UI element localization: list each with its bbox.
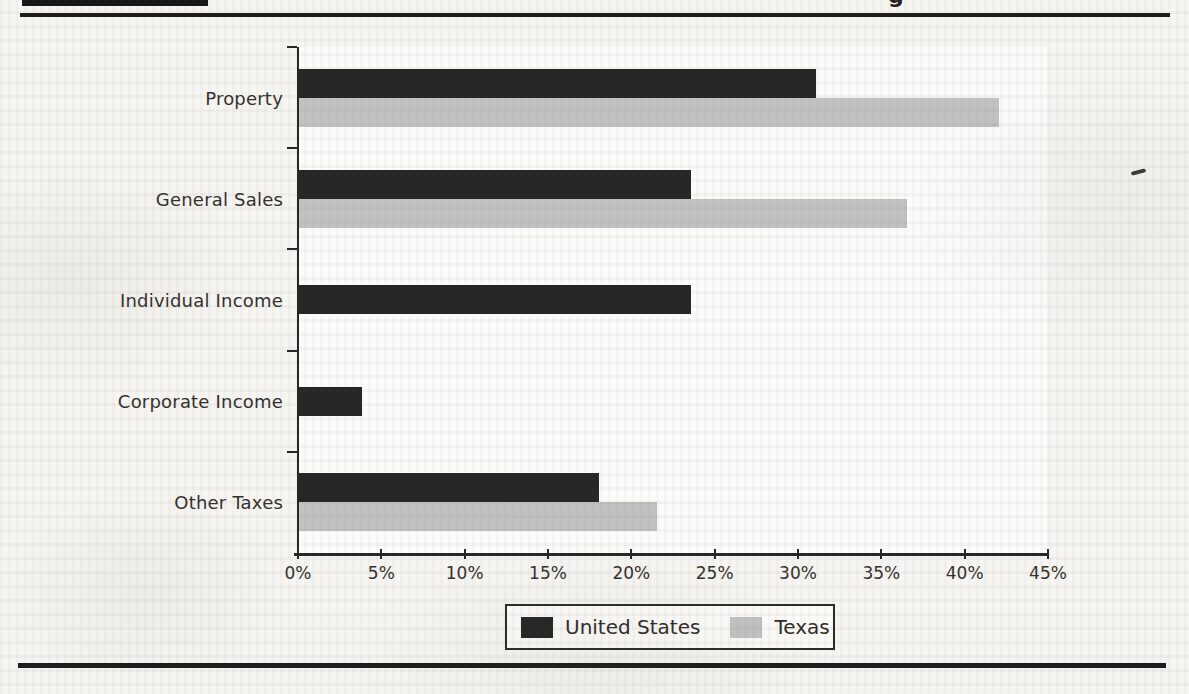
united-states-bar [299,473,599,502]
x-axis-tick [547,549,549,559]
header-tab-fragment [22,0,208,6]
legend-entry-texas: Texas [730,615,829,639]
legend-swatch-icon [730,617,762,638]
category-row-other-taxes: Other Taxes [299,452,1047,553]
top-rule [20,13,1170,17]
bottom-rule [18,663,1166,668]
texas-bar [299,502,657,531]
x-axis-tick [1047,549,1049,559]
category-label: Corporate Income [118,391,283,412]
x-axis-tick [714,549,716,559]
category-row-general-sales: General Sales [299,148,1047,249]
united-states-bar [299,285,691,314]
category-label: Individual Income [120,289,283,310]
legend-label: Texas [774,615,829,639]
category-label: General Sales [156,188,283,209]
bar-group [299,148,1047,249]
legend-label: United States [565,615,700,639]
texas-bar [299,199,907,228]
x-axis-tick [964,549,966,559]
y-axis-tick [287,350,297,352]
x-axis-tick [630,549,632,559]
x-axis-tick [464,549,466,559]
x-axis-tick-label: 35% [862,563,900,583]
x-axis: 0%5%10%15%20%25%30%35%40%45% [294,553,1049,556]
x-axis-tick [297,549,299,559]
x-axis-tick-label: 25% [696,563,734,583]
x-axis-tick-label: 40% [946,563,984,583]
x-axis-tick-label: 15% [529,563,567,583]
y-axis-tick [287,451,297,453]
united-states-bar [299,69,816,98]
x-axis-tick [797,549,799,559]
united-states-bar [299,387,362,416]
x-axis-tick-label: 20% [612,563,650,583]
category-label: Property [205,87,283,108]
bar-group [299,351,1047,452]
category-row-corporate-income: Corporate Income [299,351,1047,452]
heading-letter-fragment: g [888,0,904,8]
legend-swatch-icon [521,617,553,638]
y-axis-tick [287,46,297,48]
united-states-bar [299,170,691,199]
x-axis-tick-label: 10% [446,563,484,583]
x-axis-tick-label: 30% [779,563,817,583]
y-axis-tick [287,248,297,250]
texas-bar [299,98,999,127]
cropped-heading-text: g [886,0,912,8]
x-axis-tick-label: 0% [285,563,312,583]
x-axis-tick [880,549,882,559]
bar-group [299,452,1047,553]
x-axis-tick-label: 45% [1029,563,1067,583]
bar-group [299,249,1047,350]
bar-group [299,47,1047,148]
category-row-individual-income: Individual Income [299,249,1047,350]
scanned-book-page: g PropertyGeneral SalesIndividual Income… [0,0,1189,694]
category-label: Other Taxes [174,492,283,513]
legend-entry-united-states: United States [521,615,700,639]
plot-area: PropertyGeneral SalesIndividual IncomeCo… [297,47,1047,553]
stray-pen-mark [1131,168,1147,176]
y-axis-tick [287,147,297,149]
x-axis-tick [380,549,382,559]
category-row-property: Property [299,47,1047,148]
chart-legend: United StatesTexas [505,604,835,650]
x-axis-tick-label: 5% [368,563,395,583]
